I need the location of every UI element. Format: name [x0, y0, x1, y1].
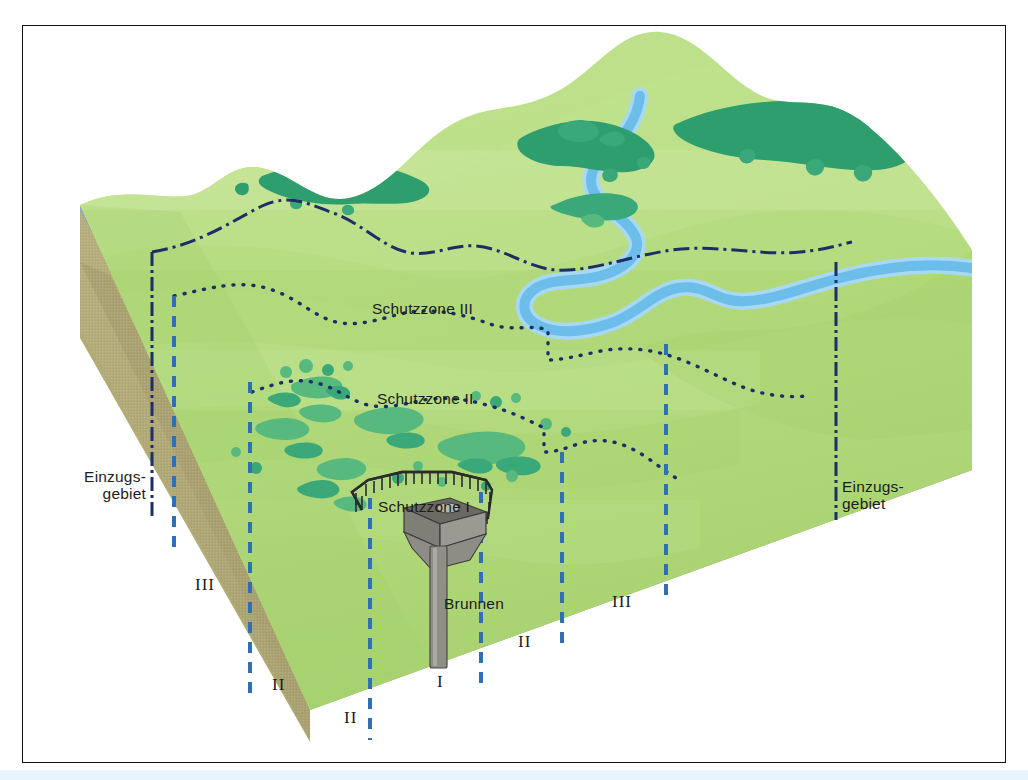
- label-marker-bottom-iii: III: [612, 592, 632, 611]
- block-diagram: [0, 0, 1028, 780]
- label-einzugsgebiet-left: Einzugs- gebiet: [78, 468, 146, 503]
- label-brunnen: Brunnen: [444, 595, 504, 612]
- label-marker-bottom-ii-a: II: [344, 708, 357, 727]
- figure-root: Schutzzone III Schutzzone II Schutzzone …: [0, 0, 1028, 780]
- label-einzugsgebiet-right: Einzugs- gebiet: [842, 478, 904, 513]
- bottom-page-strip: [0, 770, 1028, 780]
- label-marker-left-ii: II: [272, 675, 285, 694]
- well-shaft-highlight: [433, 548, 437, 666]
- label-schutzzone-iii: Schutzzone III: [372, 300, 473, 317]
- label-marker-left-iii: III: [195, 575, 215, 594]
- terrain-surface: [80, 32, 1000, 710]
- label-marker-bottom-i: I: [437, 672, 444, 691]
- label-marker-bottom-ii-b: II: [518, 632, 531, 651]
- label-schutzzone-i: Schutzzone I: [378, 498, 470, 515]
- label-schutzzone-ii: Schutzzone II: [377, 390, 474, 407]
